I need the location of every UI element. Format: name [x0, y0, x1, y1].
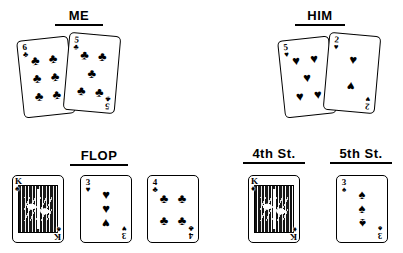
card-corner-index-bottom-right: 2 ♥	[362, 94, 373, 111]
card-me-2-five-of-clubs[interactable]: 5 ♣ ♣ ♣ ♣ ♣ ♣ 5 ♣	[63, 32, 122, 114]
card-rank-suit-top-left: K ♠	[15, 177, 22, 193]
club-icon: ♣	[103, 94, 114, 103]
club-icon: ♣	[160, 214, 169, 227]
heart-icon: ♥	[349, 53, 358, 67]
heading-fourth-street-underline	[243, 162, 305, 164]
card-corner-index-bottom-right: 3 ♠	[375, 224, 385, 240]
heading-him: HIM	[295, 8, 345, 26]
heart-icon: ♥	[313, 87, 322, 101]
heart-icon: ♥	[363, 94, 374, 103]
card-flop-3-four-of-clubs[interactable]: 4 ♣ ♣ ♣ ♣ ♣ 4 ♣	[147, 175, 199, 243]
card-rank-suit-bottom-right: K ♠	[54, 225, 61, 241]
card-pip-layout: ♣ ♣ ♣ ♣ ♣	[72, 45, 113, 102]
card-pip-layout: ♥ ♥	[332, 45, 373, 102]
spade-icon: ♠	[359, 188, 366, 201]
club-icon: ♣	[32, 71, 42, 85]
heading-fourth-street-label: 4th St.	[252, 146, 295, 161]
club-icon: ♣	[50, 69, 60, 83]
heading-him-underline	[295, 24, 345, 26]
heading-fifth-street: 5th St.	[330, 146, 392, 164]
heading-me-label: ME	[69, 8, 90, 23]
card-flop-1-king-of-spades[interactable]: K ♠ K ♠	[12, 175, 64, 243]
heading-fifth-street-underline	[330, 162, 392, 164]
club-icon: ♣	[98, 49, 108, 63]
spade-icon: ♠	[375, 224, 385, 232]
heading-me-underline	[55, 24, 103, 26]
heart-icon: ♥	[292, 53, 301, 67]
card-him-2-two-of-hearts[interactable]: 2 ♥ ♥ ♥ 2 ♥	[323, 32, 382, 114]
club-icon: ♣	[48, 51, 58, 65]
heart-icon: ♥	[295, 89, 304, 103]
heart-icon: ♥	[102, 202, 110, 215]
heading-flop: FLOP	[70, 148, 128, 166]
club-icon: ♣	[178, 214, 187, 227]
heading-flop-label: FLOP	[81, 148, 118, 163]
heading-fifth-street-label: 5th St.	[339, 146, 382, 161]
club-icon: ♣	[52, 87, 62, 101]
club-icon: ♣	[77, 83, 87, 97]
heart-icon: ♥	[102, 217, 110, 230]
diamond-icon: ♦	[251, 185, 258, 193]
heading-flop-underline	[70, 164, 128, 166]
club-icon: ♣	[87, 66, 97, 80]
heart-icon: ♥	[119, 224, 129, 232]
spade-icon: ♠	[15, 185, 22, 193]
card-corner-index-bottom-right: 4 ♣	[186, 224, 196, 240]
spade-icon: ♠	[359, 202, 366, 215]
heart-icon: ♥	[102, 188, 110, 201]
heart-icon: ♥	[310, 51, 319, 65]
card-fifth-street-three-of-spades[interactable]: 3 ♠ ♠ ♠ ♠ 3 ♠	[336, 175, 388, 243]
club-icon: ♣	[178, 192, 187, 205]
spade-icon: ♠	[359, 217, 366, 230]
card-flop-2-three-of-hearts[interactable]: 3 ♥ ♥ ♥ ♥ 3 ♥	[80, 175, 132, 243]
heart-icon: ♥	[346, 80, 355, 94]
card-corner-index-bottom-right: 5 ♣	[102, 94, 113, 111]
court-card-illustration	[18, 185, 58, 233]
heart-icon: ♥	[302, 70, 311, 84]
club-icon: ♣	[80, 47, 90, 61]
card-rank-suit-bottom-right: K ♦	[290, 225, 297, 241]
heading-him-label: HIM	[307, 8, 332, 23]
club-icon: ♣	[186, 224, 196, 232]
heading-me: ME	[55, 8, 103, 26]
court-card-illustration	[254, 185, 294, 233]
heading-fourth-street: 4th St.	[243, 146, 305, 164]
card-rank-suit-top-left: K ♦	[251, 177, 258, 193]
club-icon: ♣	[30, 53, 40, 67]
club-icon: ♣	[160, 192, 169, 205]
card-corner-index-bottom-right: 3 ♥	[119, 224, 129, 240]
club-icon: ♣	[34, 89, 44, 103]
card-fourth-street-king-of-diamonds[interactable]: K ♦ K ♦	[248, 175, 300, 243]
